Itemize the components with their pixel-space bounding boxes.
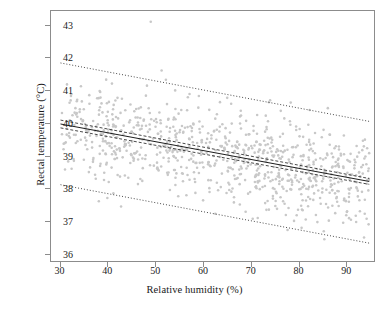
- scatter-point: [188, 138, 191, 141]
- scatter-point: [210, 134, 213, 137]
- scatter-point: [329, 179, 332, 182]
- scatter-point: [106, 119, 109, 122]
- y-tick-mark: [45, 188, 50, 189]
- scatter-point: [334, 192, 337, 195]
- scatter-point: [287, 158, 290, 161]
- scatter-point: [175, 172, 178, 175]
- scatter-point: [364, 199, 367, 202]
- scatter-point: [140, 128, 143, 131]
- scatter-point: [268, 208, 271, 211]
- scatter-point: [91, 141, 94, 144]
- scatter-point: [275, 151, 278, 154]
- scatter-point: [210, 179, 213, 182]
- scatter-point: [198, 172, 201, 175]
- scatter-point: [355, 221, 358, 224]
- scatter-point: [233, 196, 236, 199]
- scatter-point: [136, 124, 139, 127]
- scatter-point: [290, 178, 293, 181]
- scatter-point: [89, 134, 92, 137]
- scatter-point: [286, 148, 289, 151]
- scatter-point: [351, 173, 354, 176]
- scatter-point: [290, 188, 293, 191]
- scatter-point: [316, 221, 319, 224]
- scatter-point: [159, 151, 162, 154]
- scatter-point: [340, 180, 343, 183]
- scatter-point: [363, 212, 366, 215]
- scatter-point: [231, 187, 234, 190]
- scatter-point: [188, 145, 191, 148]
- scatter-point: [180, 109, 183, 112]
- scatter-point: [277, 154, 280, 157]
- scatter-point: [137, 183, 140, 186]
- scatter-point: [114, 158, 117, 161]
- scatter-point: [94, 177, 97, 180]
- scatter-point: [219, 101, 222, 104]
- scatter-point: [147, 131, 150, 134]
- scatter-point: [331, 165, 334, 168]
- scatter-point: [323, 238, 326, 241]
- scatter-point: [266, 152, 269, 155]
- scatter-point: [301, 199, 304, 202]
- scatter-point: [160, 69, 163, 72]
- scatter-point: [358, 151, 361, 154]
- scatter-point: [236, 140, 239, 143]
- x-tick-label: 40: [102, 265, 112, 276]
- scatter-point: [166, 146, 169, 149]
- scatter-point: [220, 186, 223, 189]
- scatter-point: [355, 145, 358, 148]
- scatter-point: [185, 166, 188, 169]
- scatter-point: [227, 170, 230, 173]
- scatter-point: [256, 114, 259, 117]
- scatter-point: [291, 156, 294, 159]
- scatter-point: [127, 176, 130, 179]
- scatter-point: [106, 122, 109, 125]
- scatter-point: [166, 103, 169, 106]
- scatter-point: [201, 139, 204, 142]
- scatter-point: [124, 143, 127, 146]
- scatter-point: [319, 157, 322, 160]
- scatter-point: [115, 116, 118, 119]
- scatter-point: [188, 93, 191, 96]
- scatter-point: [286, 229, 289, 232]
- scatter-point: [282, 200, 285, 203]
- scatter-point: [328, 143, 331, 146]
- scatter-point: [166, 171, 169, 174]
- scatter-point: [317, 189, 320, 192]
- scatter-point: [353, 167, 356, 170]
- scatter-point: [298, 188, 301, 191]
- scatter-point: [323, 168, 326, 171]
- scatter-point: [168, 137, 171, 140]
- scatter-point: [193, 178, 196, 181]
- y-tick-mark: [45, 57, 50, 58]
- scatter-point: [172, 149, 175, 152]
- scatter-point: [150, 118, 153, 121]
- scatter-point: [338, 148, 341, 151]
- scatter-point: [190, 130, 193, 133]
- scatter-point: [228, 189, 231, 192]
- scatter-point: [128, 121, 131, 124]
- x-tick-label: 30: [55, 265, 65, 276]
- scatter-point: [168, 131, 171, 134]
- scatter-point: [202, 199, 205, 202]
- scatter-point: [319, 203, 322, 206]
- scatter-point: [245, 167, 248, 170]
- scatter-point: [100, 132, 103, 135]
- scatter-point: [159, 119, 162, 122]
- scatter-point: [145, 94, 148, 97]
- scatter-point: [190, 153, 193, 156]
- scatter-point: [348, 217, 351, 220]
- scatter-point: [331, 189, 334, 192]
- scatter-point: [114, 152, 117, 155]
- scatter-point: [215, 138, 218, 141]
- y-tick-label: 39: [63, 150, 73, 161]
- scatter-point: [312, 163, 315, 166]
- scatter-point: [359, 210, 362, 213]
- scatter-point: [192, 160, 195, 163]
- scatter-point: [220, 145, 223, 148]
- scatter-point: [252, 130, 255, 133]
- scatter-point: [267, 171, 270, 174]
- scatter-point: [343, 134, 346, 137]
- scatter-point: [159, 122, 162, 125]
- regression-line: [61, 124, 370, 181]
- scatter-point: [175, 136, 178, 139]
